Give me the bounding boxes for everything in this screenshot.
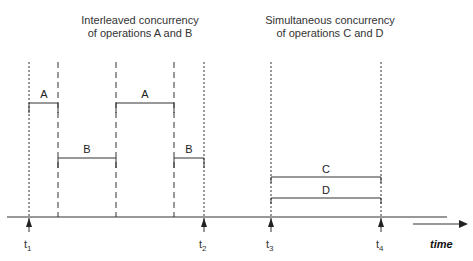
t1-arrowhead-icon [26, 218, 32, 227]
op-bar-b1 [58, 158, 116, 168]
op-label-b2: B [185, 143, 192, 155]
concurrency-diagram [0, 0, 473, 261]
t4-label: t4 [376, 238, 384, 253]
t2-label: t2 [199, 238, 207, 253]
time-arrowhead-icon [459, 220, 468, 228]
t4-arrowhead-icon [378, 218, 384, 227]
time-axis-label: time [430, 238, 453, 250]
op-bar-d [271, 198, 381, 204]
op-bar-a1 [29, 103, 58, 113]
op-label-a1: A [40, 88, 47, 100]
t3-arrowhead-icon [268, 218, 274, 227]
op-bar-a2 [116, 103, 174, 113]
op-label-c: C [322, 163, 330, 175]
op-label-a2: A [141, 88, 148, 100]
op-label-d: D [322, 184, 330, 196]
op-bar-b2 [174, 158, 204, 168]
op-label-b1: B [83, 143, 90, 155]
t3-label: t3 [266, 238, 274, 253]
t2-arrowhead-icon [201, 218, 207, 227]
t1-label: t1 [24, 238, 32, 253]
op-bar-c [271, 177, 381, 183]
